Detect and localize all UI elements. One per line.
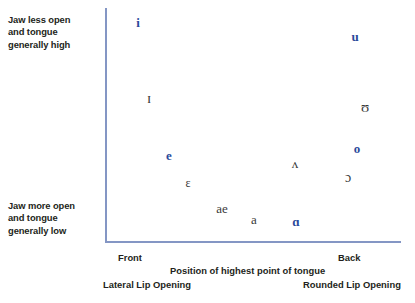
vowel-symbol: o: [354, 142, 361, 155]
vowel-symbol: a: [251, 213, 257, 226]
vowel-symbol: ʌ: [292, 157, 299, 170]
vowel-symbol: ɛ: [185, 177, 190, 189]
axis-tick-back: Back: [338, 253, 360, 262]
vowel-symbol: i: [136, 16, 140, 29]
caption-lateral-lip-opening: Lateral Lip Opening: [103, 280, 191, 289]
note-jaw-less-open: Jaw less open and tongue generally high: [8, 14, 100, 51]
vowel-symbol: ʊ: [361, 100, 369, 115]
vowel-symbol: ae: [216, 202, 228, 215]
vowel-symbol: ɑ: [292, 215, 299, 228]
note-jaw-more-open-line1: Jaw more open: [8, 200, 100, 212]
vowel-symbol: ɔ: [345, 171, 351, 185]
vowel-symbol: e: [166, 149, 172, 162]
note-jaw-more-open: Jaw more open and tongue generally low: [8, 200, 100, 237]
vowel-symbol: u: [351, 30, 358, 43]
axis-tick-front: Front: [118, 253, 142, 262]
note-jaw-more-open-line2: and tongue: [8, 212, 100, 224]
x-axis-title: Position of highest point of tongue: [170, 266, 325, 275]
note-jaw-less-open-line3: generally high: [8, 39, 100, 51]
note-jaw-less-open-line2: and tongue: [8, 26, 100, 38]
horizontal-axis: [105, 241, 401, 243]
vowel-symbol: ɪ: [147, 91, 151, 106]
note-jaw-less-open-line1: Jaw less open: [8, 14, 100, 26]
note-jaw-more-open-line3: generally low: [8, 225, 100, 237]
vertical-axis: [105, 8, 107, 243]
vowel-chart: Jaw less open and tongue generally high …: [0, 0, 415, 303]
caption-rounded-lip-opening: Rounded Lip Opening: [303, 280, 401, 289]
